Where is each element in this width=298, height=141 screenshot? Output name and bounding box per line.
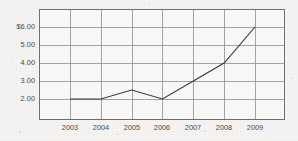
- y-tick-label-2: 2.00: [21, 94, 35, 103]
- line-chart-figure: $6.00 5.00 4.00 3.00 2.00 2003 2004 2005…: [0, 0, 298, 141]
- x-tick-label-2006: 2006: [154, 123, 170, 132]
- y-axis-labels: $6.00 5.00 4.00 3.00 2.00: [17, 22, 36, 103]
- x-tick-label-2009: 2009: [247, 123, 263, 132]
- x-tick-label-2004: 2004: [93, 123, 109, 132]
- plot-background: [39, 9, 284, 119]
- y-tick-label-5: 5.00: [21, 40, 35, 49]
- x-axis-labels: 2003 2004 2005 2006 2007 2008 2009: [62, 123, 263, 132]
- x-tick-label-2008: 2008: [216, 123, 232, 132]
- x-tick-label-2007: 2007: [185, 123, 201, 132]
- chart-canvas: $6.00 5.00 4.00 3.00 2.00 2003 2004 2005…: [0, 0, 298, 141]
- x-tick-label-2005: 2005: [124, 123, 140, 132]
- y-tick-label-6: $6.00: [17, 22, 36, 31]
- y-tick-label-4: 4.00: [21, 58, 35, 67]
- y-tick-label-3: 3.00: [21, 76, 35, 85]
- x-tick-label-2003: 2003: [62, 123, 78, 132]
